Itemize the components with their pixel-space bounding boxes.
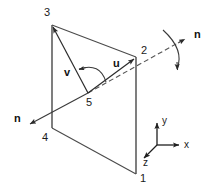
normal-labels: n n (14, 28, 201, 124)
edge-3-2 (52, 25, 136, 57)
triad-label-y: y (162, 115, 167, 126)
triad-label-x: x (184, 139, 189, 150)
node-label-1: 1 (140, 172, 146, 184)
element-plane (52, 25, 136, 174)
node-label-2: 2 (141, 44, 147, 56)
triad-label-z: z (143, 157, 148, 168)
edge-4-1 (52, 128, 136, 174)
node-labels: 1 2 3 4 5 (42, 6, 147, 184)
normal-label-right: n (194, 28, 201, 40)
normal-axis-left-segment (30, 93, 88, 124)
normal-axis (30, 39, 185, 124)
node-label-5: 5 (86, 96, 92, 108)
angle-arc-u-v (79, 67, 106, 82)
vector-label-u: u (113, 57, 120, 69)
vector-u-line (88, 59, 134, 93)
normal-axis-arrowhead (178, 39, 185, 43)
coordinate-triad (144, 123, 179, 158)
diagram-canvas: 1 2 3 4 5 u v n n y x z (0, 0, 214, 190)
shell-normal-diagram: 1 2 3 4 5 u v n n y x z (0, 0, 214, 190)
node-label-4: 4 (42, 131, 48, 143)
triad-labels: y x z (143, 115, 189, 168)
node-label-3: 3 (44, 6, 50, 18)
vector-label-v: v (64, 66, 71, 78)
local-vectors (53, 27, 134, 93)
rotation-arc-arrowhead (177, 62, 178, 70)
normal-label-left: n (14, 112, 21, 124)
